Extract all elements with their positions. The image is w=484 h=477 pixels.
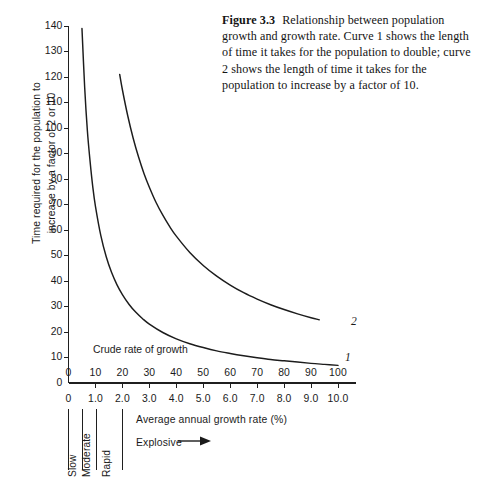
chart-axes (64, 26, 356, 389)
x-axis-tick-label-upper: 100 (318, 367, 358, 378)
curve-2-label: 2 (351, 315, 357, 327)
category-label-explosive: Explosive (136, 437, 182, 448)
category-label-moderate: Moderate (81, 433, 92, 477)
curve-2 (120, 74, 319, 319)
chart-series-group (82, 29, 338, 366)
y-axis-tick-label: 30 (23, 300, 63, 311)
y-axis-tick-label: 0 (23, 377, 63, 388)
y-axis-tick-label: 20 (23, 326, 63, 337)
y-axis-tick-label: 140 (23, 20, 63, 31)
category-label-slow: Slow (67, 455, 78, 477)
y-axis-tick-label: 10 (23, 351, 63, 362)
explosive-arrow (178, 437, 211, 446)
crude-rate-of-growth-annotation: Crude rate of growth (93, 344, 188, 355)
y-axis-tick-label: 40 (23, 275, 63, 286)
y-axis-title: Time required for the population to incr… (29, 70, 59, 256)
x-axis-title: Average annual growth rate (%) (136, 414, 287, 425)
category-label-rapid: Rapid (101, 450, 112, 477)
y-axis-tick-label: 130 (23, 45, 63, 56)
curve-1-label: 1 (345, 351, 351, 363)
x-axis-tick-label-lower: 10.0 (318, 393, 358, 404)
